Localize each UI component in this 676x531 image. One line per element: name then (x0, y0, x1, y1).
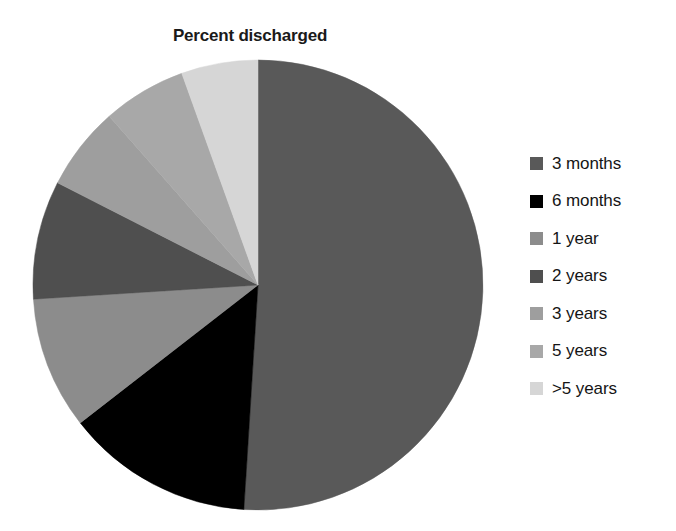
legend-item[interactable]: 3 years (530, 295, 676, 333)
legend-item[interactable]: 1 year (530, 220, 676, 258)
legend-item-label: 3 years (552, 304, 607, 324)
chart-legend: 3 months6 months1 year2 years3 years5 ye… (530, 145, 676, 408)
legend-swatch-icon (530, 307, 543, 320)
legend-item[interactable]: 6 months (530, 183, 676, 221)
legend-swatch-icon (530, 232, 543, 245)
legend-item[interactable]: 2 years (530, 258, 676, 296)
pie-chart-figure: Percent discharged 3 months6 months1 yea… (0, 0, 676, 531)
legend-item-label: 5 years (552, 341, 607, 361)
legend-item-label: 2 years (552, 266, 607, 286)
legend-swatch-icon (530, 195, 543, 208)
pie-slice (244, 60, 483, 510)
legend-item[interactable]: >5 years (530, 370, 676, 408)
legend-item[interactable]: 3 months (530, 145, 676, 183)
legend-swatch-icon (530, 382, 543, 395)
legend-item-label: 1 year (552, 229, 599, 249)
legend-swatch-icon (530, 270, 543, 283)
pie-plot-area (24, 50, 500, 520)
legend-item-label: 6 months (552, 191, 621, 211)
pie-slice-group (33, 60, 483, 510)
pie-svg (24, 50, 500, 520)
legend-item-label: >5 years (552, 379, 617, 399)
legend-item[interactable]: 5 years (530, 333, 676, 371)
legend-item-label: 3 months (552, 154, 621, 174)
legend-swatch-icon (530, 345, 543, 358)
legend-swatch-icon (530, 157, 543, 170)
chart-title: Percent discharged (0, 26, 500, 46)
